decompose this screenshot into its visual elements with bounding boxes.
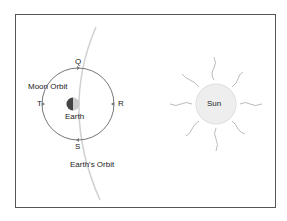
label-r: R (118, 99, 124, 108)
moon-marker-q-icon (77, 66, 80, 70)
diagram-canvas (0, 0, 287, 221)
label-s: S (75, 142, 80, 151)
label-earths-orbit: Earth's Orbit (70, 160, 114, 169)
label-t: T (37, 99, 42, 108)
label-moon-orbit: Moon Orbit (28, 82, 68, 91)
moon-marker-t-icon (42, 102, 45, 106)
moon-marker-r-icon (111, 102, 114, 106)
label-sun: Sun (207, 99, 221, 108)
earth-icon (67, 98, 80, 111)
label-earth: Earth (65, 112, 84, 121)
label-q: Q (75, 57, 81, 66)
